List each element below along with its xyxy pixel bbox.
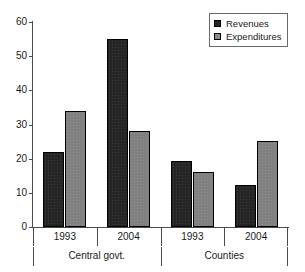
y-axis-tick-label: 50 xyxy=(16,49,27,62)
y-axis-tick-mark xyxy=(29,56,33,57)
x-axis-year-label: 2004 xyxy=(224,228,288,246)
bar-expenditures-3 xyxy=(257,141,278,227)
x-axis-group-separator xyxy=(287,247,288,266)
y-axis-tick-label: 0 xyxy=(21,220,27,233)
x-axis-group-separator xyxy=(161,247,162,266)
y-axis-tick-mark xyxy=(29,159,33,160)
plot-area: 0102030405060 xyxy=(33,22,288,227)
bar-revenues-2 xyxy=(171,161,192,227)
y-axis-tick-label: 40 xyxy=(16,83,27,96)
x-axis-group-label: Counties xyxy=(161,247,289,265)
legend-item-revenues: Revenues xyxy=(214,17,281,30)
x-axis-separator xyxy=(161,228,162,246)
bar-revenues-1 xyxy=(107,39,128,227)
legend-swatch-revenues-icon xyxy=(214,20,221,27)
bar-revenues-0 xyxy=(43,152,64,227)
x-axis-year-label: 1993 xyxy=(161,228,225,246)
y-axis-tick-mark xyxy=(29,125,33,126)
x-axis-separator xyxy=(97,228,98,246)
x-axis-separator xyxy=(224,228,225,246)
bar-expenditures-1 xyxy=(129,131,150,227)
legend-item-expenditures: Expenditures xyxy=(214,30,281,43)
legend-label-revenues: Revenues xyxy=(226,18,269,30)
bar-expenditures-0 xyxy=(65,111,86,227)
x-axis-group-separator xyxy=(33,247,34,266)
y-axis-tick-label: 10 xyxy=(16,186,27,199)
bar-expenditures-2 xyxy=(193,172,214,227)
x-axis-group-label: Central govt. xyxy=(33,247,161,265)
y-axis-tick-label: 30 xyxy=(16,118,27,131)
bar-revenues-3 xyxy=(235,185,256,227)
legend-label-expenditures: Expenditures xyxy=(226,31,281,43)
x-axis-year-label: 1993 xyxy=(33,228,97,246)
y-axis-tick-mark xyxy=(29,193,33,194)
y-axis-tick-mark xyxy=(29,22,33,23)
y-axis-tick-label: 20 xyxy=(16,152,27,165)
bar-chart: 0102030405060 1993200419932004 Central g… xyxy=(0,0,305,272)
y-axis-tick-label: 60 xyxy=(16,15,27,28)
x-axis-year-label: 2004 xyxy=(97,228,161,246)
x-axis-separator xyxy=(33,228,34,246)
y-axis-tick-mark xyxy=(29,90,33,91)
x-axis-separator xyxy=(287,228,288,246)
legend-swatch-expenditures-icon xyxy=(214,33,221,40)
chart-legend: Revenues Expenditures xyxy=(209,13,288,47)
